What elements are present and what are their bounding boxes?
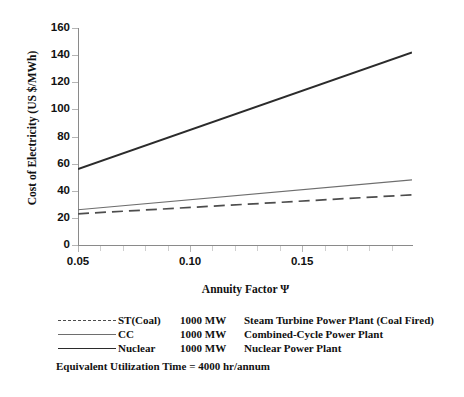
- x-tick: [78, 246, 79, 252]
- legend-note: Equivalent Utilization Time = 4000 hr/an…: [56, 360, 456, 372]
- legend-capacity: 1000 MW: [180, 328, 244, 340]
- legend-series-name: Nuclear: [118, 342, 180, 354]
- y-tick-label: 140: [30, 49, 70, 60]
- series-line-nuclear: [78, 52, 412, 169]
- x-minor-tick: [257, 246, 258, 251]
- x-minor-tick: [212, 246, 213, 251]
- y-tick-label: 100: [30, 103, 70, 114]
- chart-figure: Cost of Electricity (US $/MWh) 020406080…: [0, 0, 464, 397]
- x-tick-label: 0.15: [277, 255, 327, 267]
- x-tick-label: 0.05: [53, 255, 103, 267]
- x-axis-line: [78, 245, 413, 246]
- legend-line-sample: [56, 342, 118, 354]
- series-line-cc: [78, 180, 412, 210]
- series-line-st-coal: [78, 195, 412, 214]
- y-tick-label: 120: [30, 76, 70, 87]
- x-minor-tick: [235, 246, 236, 251]
- x-minor-tick: [100, 246, 101, 251]
- series-lines: [78, 28, 412, 245]
- x-tick-label: 0.10: [165, 255, 215, 267]
- x-tick: [302, 246, 303, 252]
- legend-row: Nuclear1000 MWNuclear Power Plant: [56, 341, 456, 355]
- x-minor-tick: [392, 246, 393, 251]
- legend-series-name: ST(Coal): [118, 314, 180, 326]
- y-tick-label: 20: [30, 212, 70, 223]
- x-minor-tick: [168, 246, 169, 251]
- legend-row: ST(Coal)1000 MWSteam Turbine Power Plant…: [56, 313, 456, 327]
- x-minor-tick: [123, 246, 124, 251]
- y-tick-label: 40: [30, 185, 70, 196]
- y-tick-label: 0: [30, 239, 70, 250]
- legend-row: CC1000 MWCombined-Cycle Power Plant: [56, 327, 456, 341]
- x-tick: [190, 246, 191, 252]
- legend-line-sample: [56, 328, 118, 340]
- chart-legend: ST(Coal)1000 MWSteam Turbine Power Plant…: [56, 313, 456, 372]
- x-axis-title: Annuity Factor Ψ: [78, 283, 413, 295]
- x-minor-tick: [369, 246, 370, 251]
- plot-area: [78, 28, 412, 245]
- legend-description: Steam Turbine Power Plant (Coal Fired): [244, 314, 456, 326]
- legend-series-name: CC: [118, 328, 180, 340]
- legend-line-sample: [56, 314, 118, 326]
- legend-description: Nuclear Power Plant: [244, 342, 456, 354]
- x-minor-tick: [347, 246, 348, 251]
- y-tick-label: 60: [30, 158, 70, 169]
- legend-capacity: 1000 MW: [180, 342, 244, 354]
- y-tick-label: 160: [30, 22, 70, 33]
- legend-capacity: 1000 MW: [180, 314, 244, 326]
- legend-description: Combined-Cycle Power Plant: [244, 328, 456, 340]
- y-tick-label: 80: [30, 131, 70, 142]
- x-minor-tick: [145, 246, 146, 251]
- x-minor-tick: [280, 246, 281, 251]
- x-minor-tick: [325, 246, 326, 251]
